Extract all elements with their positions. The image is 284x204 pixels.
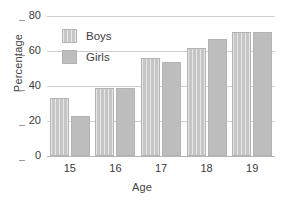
legend-item-boys: Boys [62,27,112,44]
x-axis-tick-label-18: 18 [187,162,227,174]
x-axis-tick-label-17: 17 [141,162,181,174]
y-axis-tick-mark-80 [19,20,25,21]
y-axis-tick-mark-20 [19,125,25,126]
bar-girls-age-19 [253,32,272,156]
gridline-0 [47,156,275,157]
bar-girls-age-17 [162,62,181,157]
y-axis-title: Percentage [12,8,24,118]
bar-girls-age-15 [71,116,90,156]
bar-girls-age-18 [208,39,227,156]
bar-chart: Percentage 020406080 1516171819 Age Boys… [0,0,284,204]
y-axis-tick-mark-0 [19,160,25,161]
bar-boys-age-16 [95,88,114,156]
bar-boys-age-17 [141,58,160,156]
bar-boys-age-15 [50,98,69,156]
legend-swatch-boys-icon [62,29,77,43]
y-axis-tick-mark-60 [19,55,25,56]
legend-swatch-girls-icon [62,50,77,64]
legend-label-boys: Boys [86,30,112,42]
y-axis-tick-mark-40 [19,90,25,91]
legend-item-girls: Girls [62,48,112,65]
x-axis-title: Age [0,181,284,193]
x-axis-tick-label-15: 15 [50,162,90,174]
legend-label-girls: Girls [86,51,110,63]
x-axis-tick-label-16: 16 [95,162,135,174]
bar-boys-age-18 [187,48,206,157]
bar-girls-age-16 [116,88,135,156]
bar-boys-age-19 [232,32,251,156]
x-axis-tick-label-19: 19 [232,162,272,174]
legend: Boys Girls [62,27,112,69]
